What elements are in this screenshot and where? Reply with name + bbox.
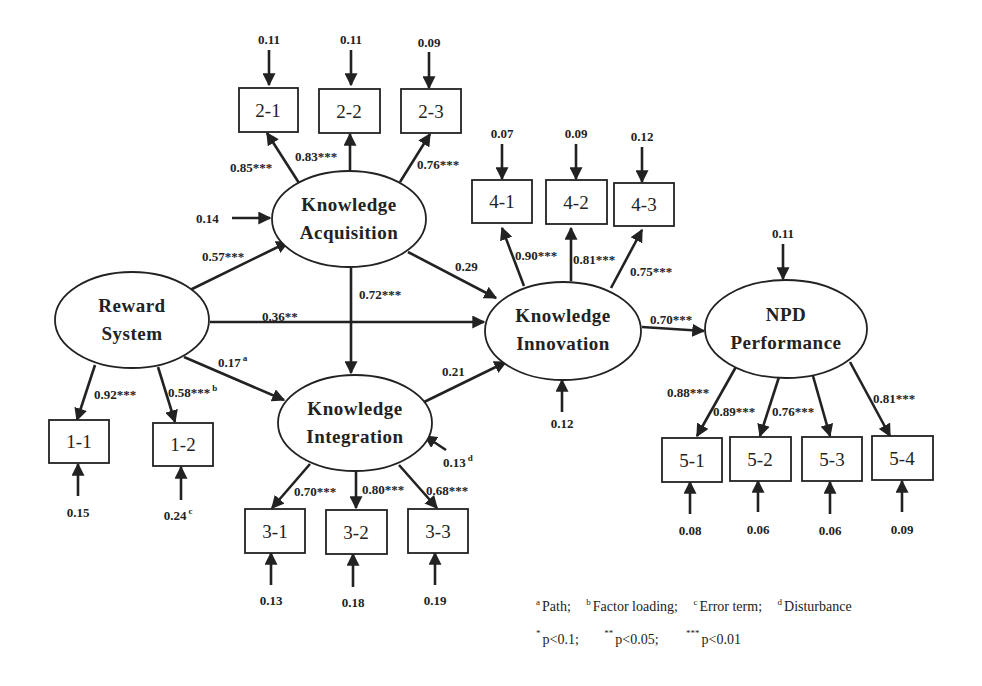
indicator-5-3: 5-3 — [802, 437, 862, 481]
indicator-2-2: 2-2 — [319, 89, 380, 133]
error-label-4-2: 0.09 — [565, 126, 588, 141]
latent-knowledge-innovation: Knowledge Innovation — [485, 282, 641, 380]
error-label-2-2: 0.11 — [340, 32, 362, 47]
error-label-1-2: 0.24c — [164, 506, 193, 523]
loading-label-4-1: 0.90*** — [515, 248, 557, 263]
error-label-4-3: 0.12 — [631, 129, 654, 144]
indicator-4-3: 4-3 — [614, 183, 674, 226]
indicator-5-1: 5-1 — [662, 438, 722, 482]
path-coef-rs-kinnov: 0.36** — [262, 309, 298, 324]
path-coef-rs-ki: 0.17a — [218, 353, 248, 370]
indicator-2-3: 2-3 — [401, 89, 461, 133]
loading-label-2-3: 0.76*** — [417, 157, 459, 172]
latent-reward-system: Reward System — [55, 272, 209, 368]
indicator-label: 4-2 — [563, 192, 588, 213]
indicator-label: 2-2 — [336, 101, 361, 122]
indicator-label: 3-1 — [262, 521, 287, 542]
disturbance-label-ka: 0.14 — [196, 211, 219, 226]
loading-arrow-4-3 — [611, 230, 642, 288]
construct-label: System — [101, 323, 162, 344]
indicator-3-2: 3-2 — [326, 510, 387, 554]
error-label-5-2: 0.06 — [747, 522, 770, 537]
loading-label-5-1: 0.88*** — [667, 385, 709, 400]
indicator-5-2: 5-2 — [730, 437, 791, 481]
indicator-label: 1-2 — [170, 434, 195, 455]
legend-notes: aPath; bFactor loading; cError term; dDi… — [536, 597, 852, 614]
error-label-5-1: 0.08 — [679, 523, 702, 538]
indicator-label: 1-1 — [66, 431, 91, 452]
loading-arrow-5-3 — [813, 376, 830, 436]
path-coef-kinnov-npd: 0.70*** — [650, 312, 692, 327]
construct-label: Reward — [98, 295, 165, 316]
path-coef-ka-ki: 0.72*** — [359, 287, 401, 302]
loading-label-2-2: 0.83*** — [295, 149, 337, 164]
construct-label: Knowledge — [301, 194, 396, 215]
indicator-2-1: 2-1 — [239, 88, 298, 132]
indicator-label: 2-1 — [255, 100, 280, 121]
construct-label: Acquisition — [300, 222, 398, 243]
path-coef-ki-kinnov: 0.21 — [442, 364, 465, 379]
construct-label: Integration — [306, 426, 403, 447]
path-arrow-kinnov-npd — [642, 327, 704, 331]
loading-arrow-5-1 — [697, 365, 737, 436]
loading-label-3-2: 0.80*** — [362, 482, 404, 497]
loading-label-5-2: 0.89*** — [713, 404, 755, 419]
indicator-label: 5-3 — [819, 449, 844, 470]
disturbance-label-kinnov: 0.12 — [551, 416, 574, 431]
indicator-3-1: 3-1 — [245, 509, 305, 553]
loading-label-2-1: 0.85*** — [230, 160, 272, 175]
error-label-5-3: 0.06 — [819, 523, 842, 538]
construct-label: Performance — [731, 332, 842, 353]
loading-label-1-2: 0.58***b — [168, 383, 217, 400]
loading-label-5-4: 0.81*** — [873, 391, 915, 406]
error-label-3-2: 0.18 — [342, 595, 365, 610]
indicator-4-1: 4-1 — [472, 180, 532, 223]
loading-label-4-3: 0.75*** — [630, 264, 672, 279]
indicator-label: 4-3 — [631, 194, 656, 215]
path-coef-ka-kinnov: 0.29 — [455, 259, 478, 274]
error-label-3-3: 0.19 — [424, 593, 447, 608]
indicator-3-3: 3-3 — [408, 509, 468, 553]
indicator-5-4: 5-4 — [872, 436, 933, 480]
construct-label: Knowledge — [515, 305, 610, 326]
error-label-4-1: 0.07 — [491, 126, 514, 141]
construct-label: NPD — [766, 304, 807, 325]
error-label-1-1: 0.15 — [67, 505, 90, 520]
indicator-4-2: 4-2 — [546, 180, 607, 224]
legend: aPath; bFactor loading; cError term; dDi… — [536, 597, 852, 647]
disturbance-label-npd: 0.11 — [772, 226, 794, 241]
indicator-label: 5-2 — [747, 449, 772, 470]
indicator-label: 5-1 — [679, 450, 704, 471]
disturbance-label-ki: 0.13d — [443, 453, 473, 470]
path-arrow-ka-kinnov — [408, 252, 496, 298]
indicator-label: 3-3 — [425, 521, 450, 542]
indicator-label: 2-3 — [418, 101, 443, 122]
indicator-1-1: 1-1 — [49, 420, 109, 463]
error-label-5-4: 0.09 — [891, 522, 914, 537]
indicator-label: 4-1 — [489, 191, 514, 212]
indicator-label: 3-2 — [343, 522, 368, 543]
loading-label-3-3: 0.68*** — [426, 483, 468, 498]
error-label-3-1: 0.13 — [260, 593, 283, 608]
loading-label-1-1: 0.92*** — [94, 387, 136, 402]
sem-diagram: Reward System Knowledge Acquisition Know… — [0, 0, 982, 686]
construct-label: Knowledge — [307, 398, 402, 419]
indicator-label: 5-4 — [889, 448, 915, 469]
legend-significance: *p<0.1; **p<0.05; ***p<0.01 — [536, 628, 741, 647]
latent-knowledge-integration: Knowledge Integration — [278, 375, 432, 471]
latent-knowledge-acquisition: Knowledge Acquisition — [272, 171, 426, 267]
error-label-2-3: 0.09 — [418, 35, 441, 50]
construct-label: Innovation — [516, 333, 610, 354]
indicator-1-2: 1-2 — [153, 423, 213, 466]
error-label-2-1: 0.11 — [258, 32, 280, 47]
latent-npd-performance: NPD Performance — [705, 280, 867, 378]
path-coef-rs-ka: 0.57*** — [202, 249, 244, 264]
loading-label-4-2: 0.81*** — [573, 252, 615, 267]
loading-arrow-1-1 — [77, 365, 95, 420]
loading-label-3-1: 0.70*** — [294, 484, 336, 499]
loading-label-5-3: 0.76*** — [772, 404, 814, 419]
